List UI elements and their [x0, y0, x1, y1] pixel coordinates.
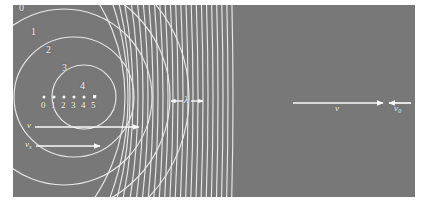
wavefront-label-4: 4	[80, 81, 85, 91]
source-dot-2	[63, 96, 66, 99]
wavelength-label: λ	[184, 95, 188, 105]
source-speed-subscript: s	[29, 143, 32, 150]
observer-speed-subscript: 0	[398, 107, 401, 114]
source-dot-3	[73, 96, 76, 99]
doppler-wavefront-figure: 0 1 2 3 4 0 1 2 3 4 5 v vs λ v v0	[0, 0, 428, 209]
wavefront-label-1: 1	[31, 27, 36, 37]
source-position-label-2: 2	[61, 101, 66, 110]
wave-speed-label-left: v	[27, 121, 31, 130]
wave-speed-label-right: v	[335, 104, 339, 113]
source-position-label-0: 0	[41, 101, 46, 110]
source-position-label-1: 1	[51, 101, 56, 110]
wavefront-arc-a	[13, 5, 125, 197]
source-dot-1	[53, 96, 56, 99]
wave-panel: 0 1 2 3 4 0 1 2 3 4 5 v vs λ v v0	[13, 5, 415, 197]
source-dot-0	[43, 96, 46, 99]
wavefront-label-2: 2	[46, 45, 51, 55]
wavefront-label-3: 3	[62, 63, 67, 73]
source-position-label-4: 4	[81, 101, 86, 110]
source-position-label-5: 5	[91, 101, 96, 110]
source-dot-5	[93, 95, 96, 98]
source-position-dots	[43, 95, 97, 99]
source-dot-4	[83, 96, 86, 99]
observer-speed-label-right: v0	[394, 104, 401, 114]
source-position-label-3: 3	[71, 101, 76, 110]
wavefront-label-0: 0	[19, 5, 24, 13]
source-speed-label-left: vs	[25, 140, 32, 150]
